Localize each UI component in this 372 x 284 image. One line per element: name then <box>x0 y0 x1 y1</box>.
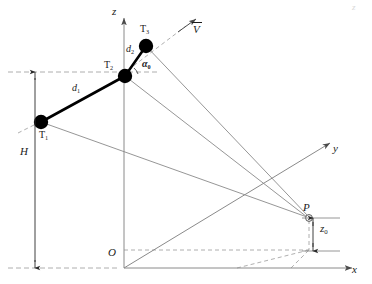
node-label-p: P <box>303 202 310 213</box>
corner-artifact: z <box>352 2 356 12</box>
ground-projection-lines <box>124 220 309 268</box>
angle-label-alpha0: α0 <box>142 59 151 70</box>
segment-label-d1: d1 <box>72 83 80 94</box>
dimension-label-h: H <box>20 146 28 157</box>
link-d1 <box>41 76 125 122</box>
axis-y-line <box>124 143 330 268</box>
axis-label-z: z <box>112 6 116 17</box>
axis-label-x: x <box>352 264 357 275</box>
sight-line-t1-p <box>41 122 307 217</box>
node-label-t3: T3 <box>140 24 149 35</box>
node-label-t1: T1 <box>39 130 48 141</box>
figure-canvas: z x y O T1 T2 T3 P d1 d2 α0 V H z0 z <box>0 0 372 284</box>
angle-arc-alpha0 <box>134 68 138 74</box>
vector-label-v: V <box>193 24 200 35</box>
segment-label-d2: d2 <box>126 44 134 55</box>
node-markers <box>34 39 313 222</box>
node-t2 <box>118 69 132 83</box>
node-t1 <box>34 115 48 129</box>
axis-label-y: y <box>333 143 338 154</box>
axis-label-origin: O <box>108 247 116 258</box>
sight-line-t3-p <box>146 46 308 216</box>
node-t3 <box>139 39 153 53</box>
node-label-t2: T2 <box>104 60 113 71</box>
diagram-svg <box>0 0 372 284</box>
tether-links <box>41 46 146 122</box>
sight-line-t2-p <box>125 76 307 217</box>
velocity-guide-line <box>128 26 186 70</box>
dimension-label-z0: z0 <box>320 223 328 236</box>
